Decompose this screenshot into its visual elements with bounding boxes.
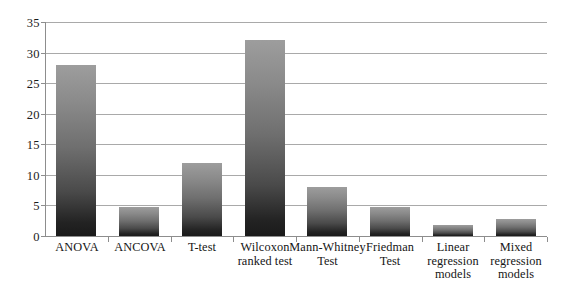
xlabel-linear-regression-models: Linear regression models	[418, 241, 488, 282]
xlabel-mixed-regression-models: Mixed regression models	[481, 241, 551, 282]
ytick-label-10: 10	[6, 170, 40, 183]
xlabel-ancova: ANCOVA	[105, 241, 175, 255]
bars-layer	[45, 22, 547, 236]
bar-linear-regression-models[interactable]	[433, 225, 473, 236]
bar-slot-mann-whitney-test	[296, 22, 359, 236]
xlabel-linear-regression-models-line-1: Linear	[418, 241, 488, 255]
ytick-mark-25	[41, 83, 46, 84]
ytick-label-5: 5	[6, 200, 40, 213]
xlabel-friedman-test-line-2: Test	[355, 255, 425, 269]
ytick-mark-15	[41, 144, 46, 145]
bar-ancova[interactable]	[119, 207, 159, 236]
xlabel-friedman-test: Friedman Test	[355, 241, 425, 268]
bar-slot-wilcoxon-ranked-test	[233, 22, 296, 236]
bar-slot-linear-regression-models	[422, 22, 485, 236]
bar-slot-friedman-test	[359, 22, 422, 236]
ytick-mark-20	[41, 114, 46, 115]
bar-slot-ancova	[108, 22, 171, 236]
xlabel-t-test: T-test	[167, 241, 237, 255]
ytick-mark-0	[41, 236, 46, 237]
xlabel-mixed-regression-models-line-2: regression	[481, 255, 551, 269]
bar-friedman-test[interactable]	[370, 207, 410, 236]
ytick-label-25: 25	[6, 78, 40, 91]
bar-slot-anova	[45, 22, 108, 236]
ytick-label-35: 35	[6, 17, 40, 30]
xlabel-anova: ANOVA	[42, 241, 112, 255]
xlabel-mixed-regression-models-line-3: models	[481, 268, 551, 282]
ytick-mark-5	[41, 205, 46, 206]
ytick-mark-10	[41, 175, 46, 176]
xlabel-mixed-regression-models-line-1: Mixed	[481, 241, 551, 255]
bar-slot-mixed-regression-models	[484, 22, 547, 236]
x-axis-labels: ANOVA ANCOVA T-test Wilcoxon ranked test…	[45, 241, 547, 291]
xlabel-ancova-line-1: ANCOVA	[105, 241, 175, 255]
bar-mixed-regression-models[interactable]	[496, 219, 536, 236]
bar-t-test[interactable]	[182, 163, 222, 236]
y-axis-ticks: 35 30 25 20 15 10 5 0	[0, 22, 40, 236]
ytick-label-30: 30	[6, 48, 40, 61]
xlabel-linear-regression-models-line-2: regression	[418, 255, 488, 269]
bar-anova[interactable]	[56, 65, 96, 236]
xlabel-friedman-test-line-1: Friedman	[355, 241, 425, 255]
bar-mann-whitney-test[interactable]	[307, 187, 347, 236]
ytick-mark-30	[41, 53, 46, 54]
ytick-label-20: 20	[6, 109, 40, 122]
bar-wilcoxon-ranked-test[interactable]	[245, 40, 285, 236]
bar-chart: 35 30 25 20 15 10 5 0 ANOVA ANCOVA	[0, 0, 565, 293]
ytick-mark-35	[41, 22, 46, 23]
xlabel-anova-line-1: ANOVA	[42, 241, 112, 255]
xlabel-t-test-line-1: T-test	[167, 241, 237, 255]
ytick-label-0: 0	[6, 231, 40, 244]
xlabel-linear-regression-models-line-3: models	[418, 268, 488, 282]
ytick-label-15: 15	[6, 139, 40, 152]
bar-slot-t-test	[171, 22, 234, 236]
